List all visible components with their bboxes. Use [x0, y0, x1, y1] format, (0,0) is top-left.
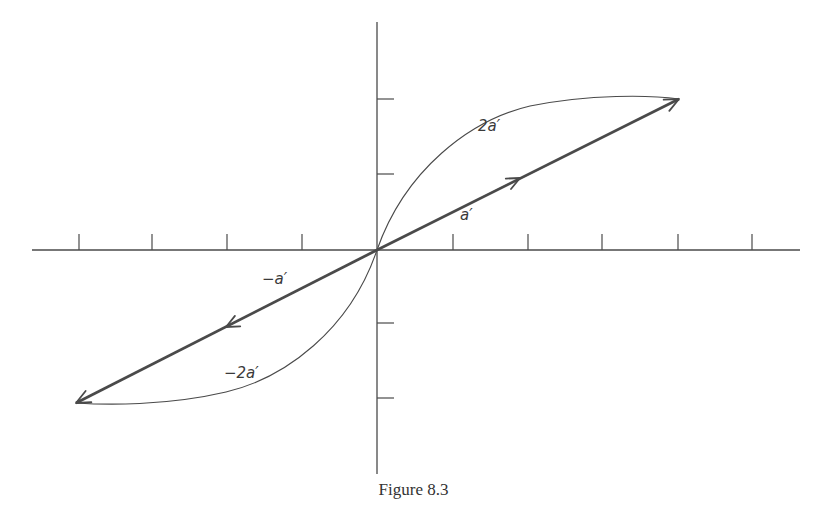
label-a-prime: a′: [460, 206, 473, 224]
label-2a-prime: 2a′: [478, 117, 500, 135]
figure-caption: Figure 8.3: [0, 480, 827, 500]
label-neg-a-prime: −a′: [262, 270, 287, 288]
label-neg-2a-prime: −2a′: [224, 364, 259, 382]
coordinate-axes: [32, 22, 800, 474]
a-prime-vector: [377, 99, 679, 250]
vector-diagram: [0, 0, 827, 526]
